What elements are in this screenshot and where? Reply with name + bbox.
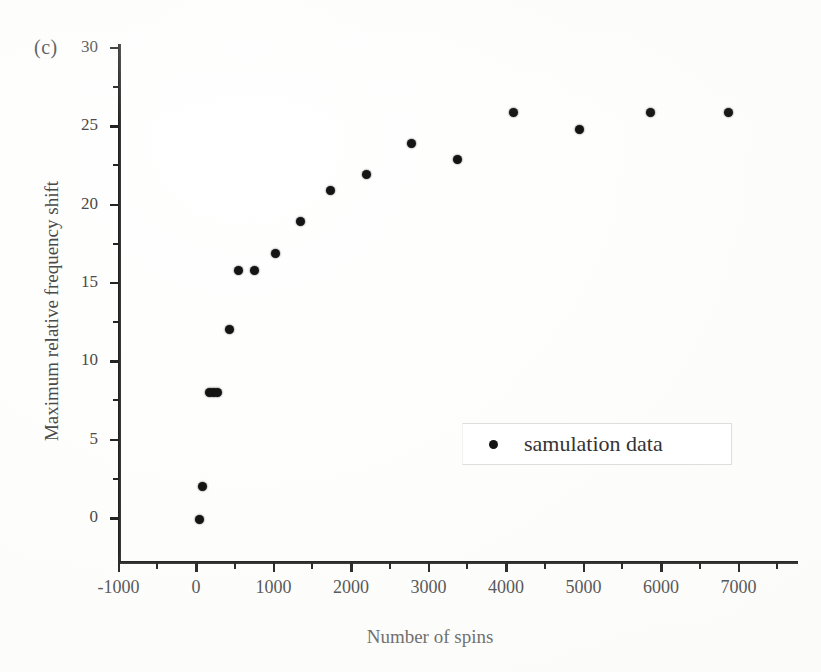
x-tick-minor — [234, 563, 236, 569]
y-tick-label: 15 — [62, 272, 98, 292]
y-tick-minor — [113, 399, 119, 401]
y-tick-major — [110, 204, 119, 207]
x-tick-major — [118, 563, 121, 572]
x-tick-minor — [466, 563, 468, 569]
y-axis-title: Maximum relative frequency shift — [41, 111, 63, 511]
y-tick-major — [110, 125, 119, 128]
x-tick-label: 2000 — [306, 577, 396, 598]
data-point — [198, 482, 207, 491]
x-tick-major — [738, 563, 741, 572]
x-tick-label: 6000 — [616, 577, 706, 598]
y-tick-label: 25 — [62, 115, 98, 135]
legend: samulation data — [462, 423, 732, 465]
y-tick-minor — [113, 86, 119, 88]
x-tick-minor — [776, 563, 778, 569]
y-tick-minor — [113, 243, 119, 245]
x-tick-major — [273, 563, 276, 572]
x-tick-label: 1000 — [229, 577, 319, 598]
x-tick-label: 3000 — [384, 577, 474, 598]
x-tick-major — [195, 563, 198, 572]
y-tick-label: 20 — [62, 194, 98, 214]
data-point — [213, 388, 222, 397]
data-point — [509, 108, 518, 117]
y-tick-major — [110, 517, 119, 520]
y-tick-major — [110, 282, 119, 285]
x-tick-major — [350, 563, 353, 572]
data-point — [225, 325, 234, 334]
data-point — [195, 515, 204, 524]
y-tick-major — [110, 47, 119, 50]
data-point — [407, 139, 416, 148]
x-tick-minor — [544, 563, 546, 569]
data-point — [234, 266, 243, 275]
y-tick-label: 30 — [62, 37, 98, 57]
x-axis-title: Number of spins — [280, 626, 580, 648]
data-point — [326, 186, 335, 195]
x-tick-minor — [156, 563, 158, 569]
y-tick-major — [110, 439, 119, 442]
x-tick-minor — [621, 563, 623, 569]
legend-label: samulation data — [524, 431, 663, 457]
data-point — [250, 266, 259, 275]
x-axis-line — [118, 561, 798, 564]
x-tick-minor — [699, 563, 701, 569]
x-tick-minor — [389, 563, 391, 569]
x-tick-major — [583, 563, 586, 572]
y-tick-label: 5 — [62, 429, 98, 449]
y-tick-label: 10 — [62, 350, 98, 370]
y-tick-minor — [113, 321, 119, 323]
y-axis-line — [118, 44, 121, 564]
data-point — [575, 125, 584, 134]
scatter-plot: 051015202530 -10000100020003000400050006… — [0, 0, 821, 672]
x-tick-label: 4000 — [461, 577, 551, 598]
x-tick-major — [660, 563, 663, 572]
x-tick-label: 5000 — [539, 577, 629, 598]
x-tick-label: 0 — [151, 577, 241, 598]
x-tick-minor — [311, 563, 313, 569]
y-tick-label: 0 — [62, 507, 98, 527]
x-tick-label: 7000 — [694, 577, 784, 598]
x-tick-label: -1000 — [74, 577, 164, 598]
y-tick-minor — [113, 478, 119, 480]
y-tick-minor — [113, 164, 119, 166]
data-point — [646, 108, 655, 117]
x-tick-major — [428, 563, 431, 572]
x-tick-major — [505, 563, 508, 572]
data-point — [453, 155, 462, 164]
y-tick-major — [110, 360, 119, 363]
data-point — [271, 249, 280, 258]
data-point — [296, 217, 305, 226]
figure-panel-c: (c) 051015202530 -1000010002000300040005… — [0, 0, 821, 672]
data-point — [362, 170, 371, 179]
data-point — [724, 108, 733, 117]
legend-marker-icon — [489, 440, 498, 449]
